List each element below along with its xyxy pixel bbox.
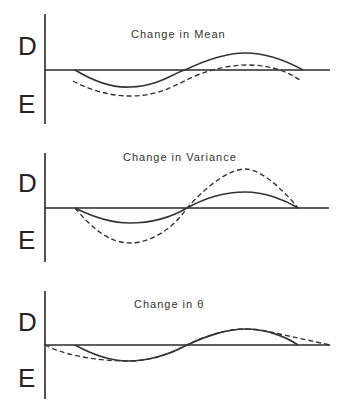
y-label-e: E <box>18 363 35 393</box>
panel-change-in-theta: Change in θ D E <box>18 291 330 399</box>
panel-title: Change in Variance <box>123 151 237 163</box>
diagram-canvas: Change in Mean D E Change in Variance D … <box>0 0 348 414</box>
panel-title: Change in θ <box>134 298 204 310</box>
panel-change-in-mean: Change in Mean D E <box>18 14 330 124</box>
y-label-e: E <box>18 225 35 255</box>
dashed-curve <box>75 169 298 243</box>
y-label-d: D <box>18 168 37 198</box>
y-label-d: D <box>18 31 37 61</box>
y-label-e: E <box>18 89 35 119</box>
panel-title: Change in Mean <box>131 28 226 40</box>
y-label-d: D <box>18 307 37 337</box>
panel-change-in-variance: Change in Variance D E <box>18 151 329 262</box>
